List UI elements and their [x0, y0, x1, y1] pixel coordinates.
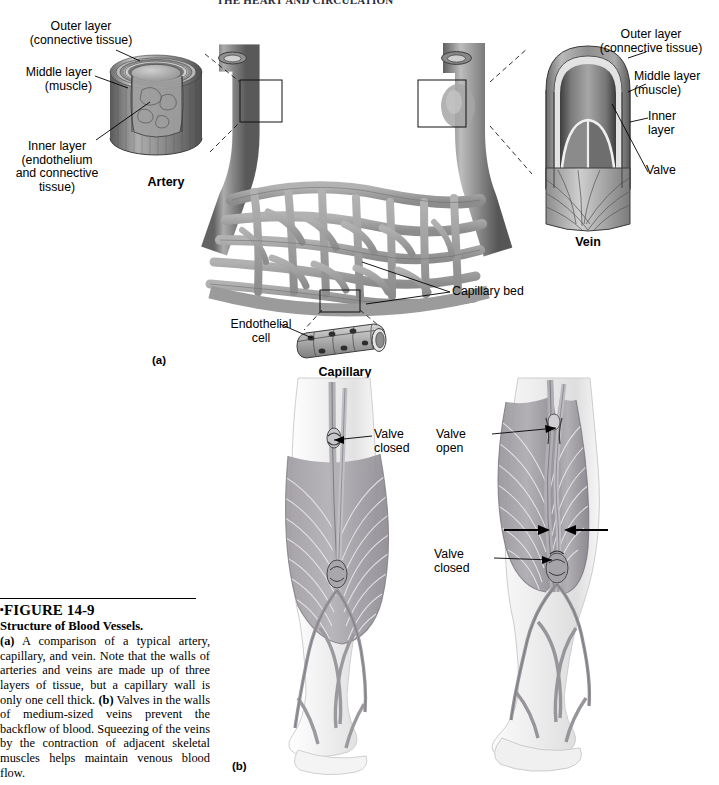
figure-title: Structure of Blood Vessels. — [0, 619, 210, 634]
vein-leader-lines — [520, 0, 719, 220]
panel-a-label: (a) — [152, 354, 166, 366]
leg-right-valve-open-leader-line — [470, 420, 580, 460]
caption-b-tag: (b) — [98, 693, 113, 707]
caption-a-tag: (a) — [0, 634, 14, 648]
figure-number: ▪FIGURE 14-9 — [0, 602, 210, 618]
figure-caption: ▪FIGURE 14-9 Structure of Blood Vessels.… — [0, 598, 210, 780]
figure-number-text: FIGURE 14-9 — [4, 602, 95, 618]
figure-page: THE HEART AND CIRCULATION — [0, 0, 719, 785]
endothelial-leader-line — [280, 320, 340, 360]
caption-rule — [0, 598, 196, 599]
leg-left-valve-leader-line — [320, 424, 390, 454]
panel-b-label: (b) — [232, 760, 247, 772]
leg-right-valve-closed-leader-line — [470, 548, 580, 578]
figure-caption-body: (a) A comparison of a typical artery, ca… — [0, 634, 210, 780]
artery-magnifier-lines — [0, 0, 300, 220]
valve-lower-bulge — [327, 560, 347, 588]
vein-caption: Vein — [548, 236, 628, 250]
capillary-bed-leader-lines — [330, 260, 470, 320]
